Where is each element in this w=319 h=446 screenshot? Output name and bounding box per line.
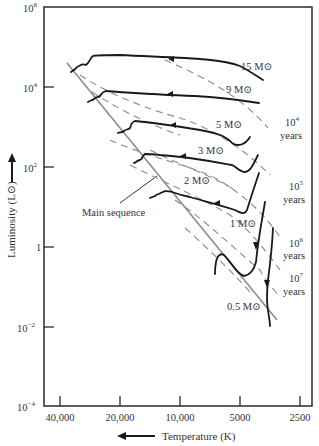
svg-text:years: years (283, 286, 305, 297)
label-5msun: 5 M⊙ (216, 119, 242, 130)
y-tick-label-1e6: 106 (23, 1, 38, 14)
label-2msun: 2 M⊙ (184, 175, 210, 186)
label-1msun: 1 M⊙ (230, 218, 256, 229)
y-tick-label-1: 1 (36, 242, 41, 253)
main-sequence-label: Main sequence (82, 207, 146, 218)
x-axis-title: Temperature (K) (117, 430, 236, 443)
x-tick-label-40000: 40,000 (46, 412, 75, 423)
label-3msun: 3 M⊙ (198, 145, 224, 156)
svg-text:Temperature (K): Temperature (K) (162, 430, 236, 443)
svg-text:years: years (280, 130, 302, 141)
svg-text:Luminosity (L⊙): Luminosity (L⊙) (5, 181, 18, 258)
x-tick-label-5000: 5000 (230, 412, 251, 423)
svg-text:106: 106 (289, 236, 304, 249)
track-3msun (134, 154, 258, 172)
svg-text:104: 104 (285, 115, 300, 128)
y-tick-label-1e-4: 10−4 (17, 400, 35, 413)
main-sequence-pointer (120, 176, 157, 203)
svg-text:years: years (283, 250, 305, 261)
y-tick-label-1e2: 102 (23, 161, 38, 174)
svg-text:105: 105 (289, 179, 304, 192)
label-05msun: 0.5 M⊙ (227, 301, 261, 312)
track-15msun (71, 55, 263, 80)
y-tick-label-1e4: 104 (23, 81, 38, 94)
x-tick-label-20000: 20,000 (106, 412, 135, 423)
isochrone-label-1e7: 107 years (283, 271, 305, 297)
svg-text:years: years (283, 194, 305, 205)
y-axis-ticks (44, 87, 54, 327)
hr-diagram-chart: 106 104 102 1 10−2 10−4 40,000 20,000 10… (0, 0, 319, 446)
y-axis-title: Luminosity (L⊙) (5, 153, 18, 258)
svg-text:107: 107 (289, 271, 304, 284)
x-tick-label-10000: 10,000 (166, 412, 195, 423)
x-tick-label-2500: 2500 (290, 412, 311, 423)
isochrone-label-1e4: 104 years (280, 115, 302, 141)
isochrone-label-1e6: 106 years (283, 236, 305, 261)
x-axis-ticks (60, 396, 300, 406)
y-tick-label-1e-2: 10−2 (17, 321, 35, 334)
label-9msun: 9 M⊙ (226, 84, 252, 95)
isochrone-label-1e5: 105 years (283, 179, 305, 205)
label-15msun: 15 M⊙ (241, 61, 272, 72)
